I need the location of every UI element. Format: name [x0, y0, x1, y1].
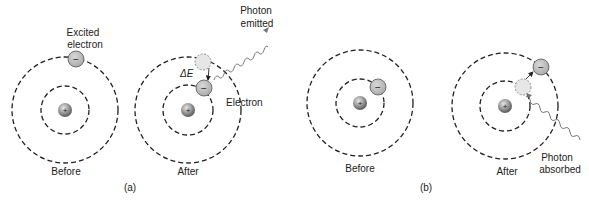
nucleus-plus-icon: +	[358, 99, 363, 108]
photon-absorbed-label-1: Photon	[541, 152, 573, 163]
transition-arrow	[526, 72, 533, 79]
caption-after-b: After	[496, 166, 518, 177]
excited-electron-label-1: Excited	[67, 27, 100, 38]
caption-after-a: After	[177, 166, 199, 177]
ghost-electron	[195, 54, 211, 70]
ghost-electron	[515, 79, 531, 95]
photon-arrowhead	[526, 93, 532, 98]
panel-a-before: + − Excited electron Before	[12, 27, 118, 177]
diagram-canvas: + − Excited electron Before (a) + − ΔE E…	[0, 0, 589, 200]
bohr-model-figure: + − Excited electron Before (a) + − ΔE E…	[0, 0, 589, 200]
nucleus-plus-icon: +	[63, 106, 68, 115]
electron-minus-icon: −	[375, 82, 381, 93]
electron-minus-icon: −	[538, 62, 544, 73]
electron-minus-icon: −	[73, 54, 79, 65]
electron-label: Electron	[226, 97, 263, 108]
photon-emitted-label-2: emitted	[241, 18, 274, 29]
caption-before-a: Before	[51, 166, 81, 177]
caption-before-b: Before	[345, 163, 375, 174]
excited-electron-label-2: electron	[67, 39, 103, 50]
panel-b-tag: (b)	[420, 182, 432, 193]
panel-b-before: + − Before	[307, 50, 413, 174]
panel-b-after: + − Photon absorbed After	[452, 53, 581, 177]
nucleus-plus-icon: +	[503, 102, 508, 111]
absorbed-photon-wave	[526, 96, 580, 140]
panel-a-tag: (a)	[124, 182, 136, 193]
emitted-photon-wave	[214, 46, 268, 80]
nucleus-plus-icon: +	[186, 106, 191, 115]
transition-arrow	[208, 68, 209, 80]
photon-emitted-label-1: Photon	[240, 5, 272, 16]
panel-a-after: + − ΔE Electron Photon emitted After	[135, 5, 273, 177]
delta-e-label: ΔE	[179, 68, 194, 79]
photon-absorbed-label-2: absorbed	[539, 164, 581, 175]
electron-minus-icon: −	[201, 83, 207, 94]
